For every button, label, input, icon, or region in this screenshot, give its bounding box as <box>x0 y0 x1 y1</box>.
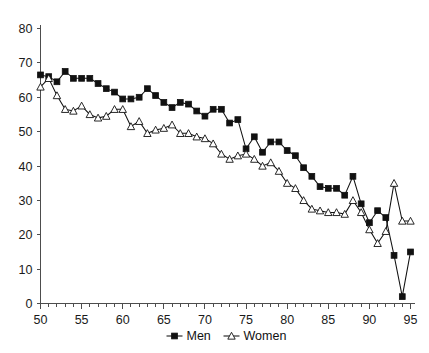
data-point-men <box>95 81 101 87</box>
y-tick-label: 30 <box>19 194 33 208</box>
y-tick-label: 20 <box>19 228 33 242</box>
series-line-men <box>41 71 411 296</box>
data-point-women <box>144 130 151 137</box>
data-point-women <box>349 197 356 204</box>
y-tick-label: 80 <box>19 22 33 36</box>
data-point-men <box>186 101 192 107</box>
data-point-women <box>366 226 373 233</box>
data-point-women <box>300 197 307 204</box>
y-tick-label: 10 <box>19 263 33 277</box>
data-point-men <box>260 149 266 155</box>
data-point-women <box>193 133 200 140</box>
data-point-men <box>292 153 298 159</box>
data-point-men <box>202 113 208 119</box>
data-point-men <box>144 86 150 92</box>
data-point-men <box>276 139 282 145</box>
data-point-men <box>309 173 315 179</box>
data-point-women <box>209 140 216 147</box>
data-point-men <box>210 106 216 112</box>
data-point-men <box>251 134 257 140</box>
data-point-women <box>226 155 233 162</box>
x-tick-label: 65 <box>157 313 171 327</box>
data-point-men <box>301 165 307 171</box>
data-point-men <box>317 184 323 190</box>
data-point-women <box>374 240 381 247</box>
y-tick-label: 70 <box>19 56 33 70</box>
line-chart: 01020304050607080 50556065707580859095 M… <box>0 0 429 353</box>
legend-label: Men <box>187 329 211 343</box>
data-point-men <box>235 117 241 123</box>
x-tick-label: 50 <box>34 313 48 327</box>
data-point-men <box>227 120 233 126</box>
data-point-men <box>120 96 126 102</box>
data-series-group <box>37 69 414 300</box>
y-tick-label: 0 <box>26 297 33 311</box>
data-point-men <box>136 94 142 100</box>
series-line-women <box>41 78 411 243</box>
data-point-women <box>135 118 142 125</box>
y-tick-label: 60 <box>19 91 33 105</box>
data-point-men <box>284 148 290 154</box>
data-point-men <box>218 106 224 112</box>
chart-container: 01020304050607080 50556065707580859095 M… <box>0 0 429 353</box>
data-point-women <box>127 123 134 130</box>
data-point-men <box>391 252 397 258</box>
data-point-men <box>342 192 348 198</box>
data-point-men <box>70 75 76 81</box>
data-point-men <box>375 208 381 214</box>
series-men <box>38 69 414 300</box>
data-point-women <box>160 124 167 131</box>
legend-item-men: Men <box>167 329 211 343</box>
data-point-men <box>169 105 175 111</box>
x-tick-label: 95 <box>404 313 418 327</box>
data-point-women <box>53 92 60 99</box>
x-tick-label: 75 <box>239 313 253 327</box>
data-point-men <box>268 139 274 145</box>
data-point-men <box>194 108 200 114</box>
x-tick-label: 80 <box>280 313 294 327</box>
x-tick-label: 85 <box>321 313 335 327</box>
data-point-men <box>325 185 331 191</box>
data-point-men <box>350 173 356 179</box>
y-tick-label: 40 <box>19 160 33 174</box>
x-tick-label: 70 <box>198 313 212 327</box>
legend-item-women: Women <box>224 329 287 343</box>
data-point-men <box>399 294 405 300</box>
data-point-men <box>161 100 167 106</box>
data-point-women <box>267 159 274 166</box>
data-point-women <box>390 179 397 186</box>
data-point-men <box>334 185 340 191</box>
data-point-men <box>54 79 60 85</box>
legend-label: Women <box>244 329 287 343</box>
data-point-women <box>283 179 290 186</box>
data-point-men <box>38 72 44 78</box>
x-tick-label: 55 <box>75 313 89 327</box>
x-tick-label: 60 <box>116 313 130 327</box>
data-point-men <box>358 201 364 207</box>
data-point-men <box>128 96 134 102</box>
y-tick-label: 50 <box>19 125 33 139</box>
legend-marker-men <box>172 333 178 339</box>
data-point-women <box>292 185 299 192</box>
data-point-men <box>79 75 85 81</box>
x-tick-label: 90 <box>362 313 376 327</box>
y-axis-ticks: 01020304050607080 <box>19 22 41 311</box>
data-point-men <box>103 86 109 92</box>
x-axis-ticks: 50556065707580859095 <box>34 304 418 327</box>
series-women <box>37 75 414 247</box>
data-point-men <box>87 75 93 81</box>
data-point-men <box>408 249 414 255</box>
data-point-men <box>153 93 159 99</box>
data-point-women <box>78 102 85 109</box>
data-point-men <box>62 69 68 75</box>
data-point-men <box>112 89 118 95</box>
data-point-women <box>251 155 258 162</box>
data-point-men <box>177 100 183 106</box>
data-point-women <box>168 121 175 128</box>
chart-legend: MenWomen <box>167 329 287 343</box>
data-point-women <box>61 106 68 113</box>
